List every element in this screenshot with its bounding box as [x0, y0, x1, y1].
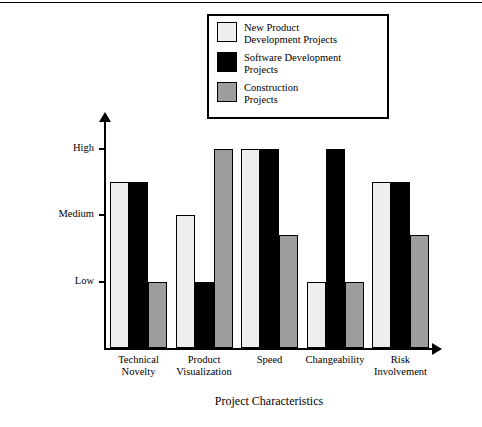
bar: [391, 182, 410, 348]
bar: [410, 235, 429, 348]
bar: [195, 282, 214, 348]
y-axis-arrow-icon: [99, 112, 111, 122]
bar: [148, 282, 167, 348]
y-tick-mark: [99, 148, 105, 150]
bar: [260, 149, 279, 348]
bar: [129, 182, 148, 348]
bar-chart-figure: New Product Development Projects Softwar…: [0, 0, 482, 427]
x-axis-title: Project Characteristics: [104, 394, 434, 409]
x-axis-line: [104, 348, 434, 350]
bar: [214, 149, 233, 348]
legend-label-software-development: Software Development Projects: [244, 52, 341, 75]
legend-label-new-product-development: New Product Development Projects: [244, 22, 337, 45]
chart-legend: New Product Development Projects Softwar…: [207, 14, 389, 119]
y-tick-label: Low: [50, 275, 94, 286]
bar: [345, 282, 364, 348]
legend-swatch-software-development: [217, 52, 237, 72]
legend-item-software-development: Software Development Projects: [217, 52, 381, 75]
legend-item-new-product-development: New Product Development Projects: [217, 22, 381, 45]
y-tick-mark: [99, 281, 105, 283]
bar: [241, 149, 260, 348]
figure-top-rule: [0, 2, 482, 3]
legend-swatch-new-product-development: [217, 22, 237, 42]
bars-layer: [106, 126, 436, 348]
legend-label-construction: Construction Projects: [244, 82, 298, 105]
bar: [372, 182, 391, 348]
bar: [110, 182, 129, 348]
legend-swatch-construction: [217, 82, 237, 102]
y-tick-mark: [99, 214, 105, 216]
bar: [326, 149, 345, 348]
bar: [279, 235, 298, 348]
y-tick-label: High: [50, 142, 94, 153]
bar: [307, 282, 326, 348]
x-tick-label: Risk Involvement: [361, 354, 441, 378]
legend-item-construction: Construction Projects: [217, 82, 381, 105]
y-tick-label: Medium: [50, 208, 94, 219]
bar: [176, 215, 195, 348]
